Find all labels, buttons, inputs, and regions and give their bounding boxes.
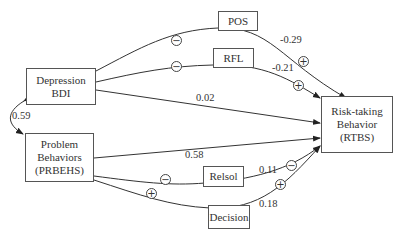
node-rfl: RFL bbox=[213, 48, 254, 68]
node-problem-line3: (PRBEHS) bbox=[35, 164, 84, 177]
node-depression-line2: BDI bbox=[52, 87, 71, 100]
node-problem-behaviors: Problem Behaviors (PRBEHS) bbox=[25, 133, 94, 182]
coef-problem-risk: 0.58 bbox=[185, 149, 203, 160]
node-problem-line1: Problem bbox=[41, 138, 78, 151]
path-problem-risk bbox=[94, 138, 320, 158]
node-relsol-label: Relsol bbox=[209, 170, 237, 183]
sign-minus-dep-rfl: − bbox=[171, 61, 182, 72]
node-decision-label: Decision bbox=[209, 211, 248, 224]
node-risk-line3: (RTBS) bbox=[340, 131, 374, 144]
coef-depression-risk: 0.02 bbox=[196, 92, 214, 103]
sign-plus-decision-risk: + bbox=[275, 179, 286, 190]
node-risk-line1: Risk-taking bbox=[331, 105, 382, 118]
sign-plus-pos-risk: + bbox=[298, 56, 309, 67]
node-relsol: Relsol bbox=[203, 166, 244, 187]
node-pos-label: POS bbox=[228, 15, 248, 28]
sign-minus-relsol-risk: − bbox=[286, 160, 297, 171]
node-decision: Decision bbox=[208, 205, 250, 229]
coef-decision-risk: 0.18 bbox=[259, 198, 277, 209]
sign-minus-prob-relsol: − bbox=[160, 174, 171, 185]
node-rfl-label: RFL bbox=[223, 52, 243, 65]
sign-plus-rfl-risk: + bbox=[293, 80, 304, 91]
node-risk-taking: Risk-taking Behavior (RTBS) bbox=[321, 96, 393, 153]
coef-relsol-risk: 0.11 bbox=[259, 164, 277, 175]
node-problem-line2: Behaviors bbox=[37, 151, 82, 164]
coef-correlation: 0.59 bbox=[12, 110, 30, 121]
node-risk-line2: Behavior bbox=[337, 118, 377, 131]
node-depression: Depression BDI bbox=[26, 68, 96, 105]
node-pos: POS bbox=[218, 11, 258, 31]
coef-rfl-risk: -0.21 bbox=[272, 62, 294, 73]
sign-minus-dep-pos: − bbox=[171, 35, 182, 46]
sign-plus-prob-decision: + bbox=[146, 188, 157, 199]
node-depression-line1: Depression bbox=[36, 74, 86, 87]
coef-pos-risk: -0.29 bbox=[280, 34, 302, 45]
